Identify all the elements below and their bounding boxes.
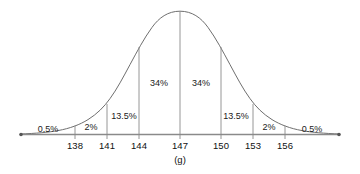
region-label-2-percent-left: 2% — [84, 123, 97, 132]
x-axis-unit-label: (g) — [174, 155, 186, 165]
x-axis-right-endpoint — [337, 133, 341, 137]
region-label-0-5-percent-left: 0.5% — [38, 125, 59, 134]
bell-curve-figure: 0.5% 2% 13.5% 34% 34% 13.5% 2% 0.5% 138 … — [0, 0, 360, 174]
x-axis-left-endpoint — [19, 133, 23, 137]
region-label-2-percent-right: 2% — [262, 123, 275, 132]
x-tick-label-141: 141 — [99, 141, 115, 151]
x-tick-label-150: 150 — [213, 141, 229, 151]
region-label-34-percent-left: 34% — [150, 79, 168, 88]
x-tick-label-147: 147 — [172, 141, 188, 151]
region-label-13-5-percent-right: 13.5% — [223, 112, 249, 121]
x-tick-label-144: 144 — [131, 141, 147, 151]
x-tick-label-153: 153 — [245, 141, 261, 151]
region-label-13-5-percent-left: 13.5% — [111, 112, 137, 121]
x-tick-label-156: 156 — [277, 141, 293, 151]
region-label-34-percent-right: 34% — [192, 79, 210, 88]
x-tick-label-138: 138 — [67, 141, 83, 151]
region-label-0-5-percent-right: 0.5% — [302, 125, 323, 134]
